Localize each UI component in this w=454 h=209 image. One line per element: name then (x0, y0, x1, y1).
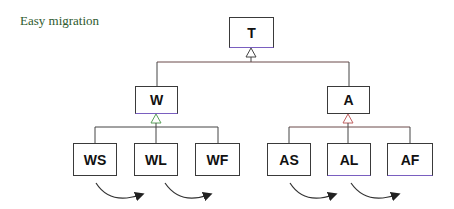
node-as: AS (267, 143, 311, 176)
node-wf: WF (195, 143, 240, 176)
node-al: AL (327, 143, 371, 176)
node-af: AF (387, 143, 433, 176)
inheritance-w (95, 114, 218, 143)
node-w: W (135, 86, 178, 114)
node-a: A (327, 86, 370, 114)
node-t: T (229, 17, 274, 48)
node-ws: WS (73, 143, 117, 176)
inheritance-t (157, 48, 349, 86)
connector-lines (0, 0, 454, 209)
migration-arrows (96, 183, 396, 198)
node-wl: WL (134, 143, 178, 176)
inheritance-a (289, 114, 410, 143)
diagram-canvas: Easy migration (0, 0, 454, 209)
